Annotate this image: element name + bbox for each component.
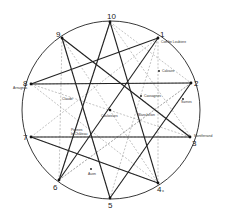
inner-point-dots (90, 70, 184, 170)
point-label-3: 3 (192, 139, 197, 148)
label-claude: Claude (62, 97, 73, 101)
cassagnes-dot (140, 95, 142, 97)
label-blanchelon: Blanchelon (138, 113, 155, 117)
label-arnugnac: Arnugnac (13, 86, 28, 90)
label-calvaire: Calvaire (162, 69, 175, 73)
label-sarnes: Sarnes (181, 100, 192, 104)
decagram-diagram: 10 1 2 3 4 x 5 6 7 8 9 Combe Loubiere Ca… (0, 0, 230, 217)
label-combe-loubiere: Combe Loubiere (161, 40, 186, 44)
point-label-9: 9 (56, 30, 61, 39)
label-auen: Auen (88, 172, 96, 176)
point-label-5: 5 (108, 201, 113, 210)
couloisses-dot (109, 109, 112, 112)
label-le-chateau: le Château (71, 132, 88, 136)
point-label-4-suffix: x (162, 188, 164, 193)
label-montferrand: Montferrand (194, 134, 212, 138)
point-label-1: 1 (160, 30, 165, 39)
label-couloisses: Couloisses (101, 114, 118, 118)
point-label-6: 6 (53, 183, 58, 192)
point-label-7: 7 (23, 133, 28, 142)
point-label-10: 10 (107, 12, 116, 21)
point-label-2: 2 (194, 79, 199, 88)
label-cassagnes: Cassagnes (144, 94, 161, 98)
auen-dot (90, 168, 92, 170)
place-labels: Combe Loubiere Calvaire Cassagnes Sarnes… (13, 40, 212, 176)
calvaire-dot (158, 70, 160, 72)
